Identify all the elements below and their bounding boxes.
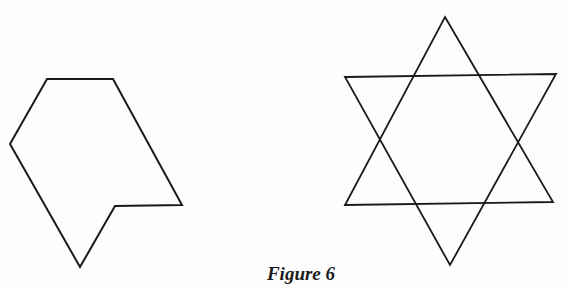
star-triangle-down — [345, 74, 556, 265]
figure-caption: Figure 6 — [267, 263, 335, 285]
six-pointed-star — [345, 17, 556, 265]
figure-drawing — [0, 0, 570, 290]
figure-caption-container: Figure 6 — [0, 263, 570, 285]
star-triangle-up — [345, 17, 553, 205]
irregular-polygon — [10, 79, 182, 267]
